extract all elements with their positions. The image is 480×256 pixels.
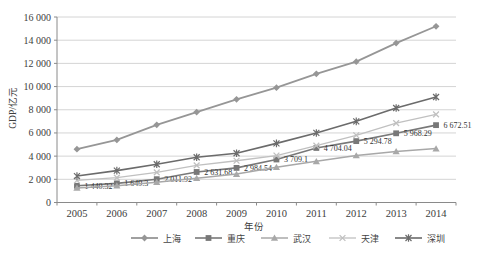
diamond-marker-icon [74,146,81,153]
y-tick-label: 8 000 [29,104,52,115]
legend-label-shenzhen: 深圳 [427,234,445,244]
legend-item-shenzhen: 深圳 [395,234,445,244]
diamond-marker-icon [353,58,360,65]
square-marker-icon [234,165,240,171]
legend-item-tianjin: 天津 [329,234,379,244]
data-label-chongqing-2014: 6 672.51 [444,121,472,130]
y-tick-label: 12 000 [24,58,52,69]
square-marker-icon [433,122,439,128]
data-label-chongqing-2012: 5 294.78 [364,137,392,146]
x-tick-label: 2010 [266,208,287,219]
square-marker-icon [206,235,212,241]
x-tick-label: 2008 [186,208,207,219]
diamond-marker-icon [393,40,400,47]
x-tick-label: 2013 [386,208,407,219]
x-tick-label: 2014 [426,208,448,219]
y-axis-title: GDP/亿元 [7,87,18,129]
legend-label-wuhan: 武汉 [293,233,311,244]
data-label-chongqing-2013: 5 968.29 [404,129,432,138]
y-tick-label: 6 000 [29,127,52,138]
diamond-marker-icon [313,70,320,77]
diamond-marker-icon [433,23,440,30]
x-tick-label: 2012 [346,208,367,219]
legend-label-chongqing: 重庆 [227,233,245,244]
y-tick-label: 10 000 [24,81,52,92]
legend-item-chongqing: 重庆 [195,233,245,244]
square-marker-icon [353,138,359,144]
y-tick-label: 14 000 [24,35,52,46]
legend-label-shanghai: 上海 [163,233,181,244]
legend-label-tianjin: 天津 [361,234,379,244]
x-axis-title: 年份 [244,221,264,232]
legend-item-shanghai: 上海 [131,233,181,244]
y-tick-label: 2 000 [29,174,52,185]
x-tick-label: 2007 [146,208,167,219]
x-tick-label: 2009 [226,208,247,219]
diamond-marker-icon [141,235,148,242]
gdp-line-chart: 02 0004 0006 0008 00010 00012 00014 0001… [0,0,480,256]
y-tick-label: 16 000 [24,12,52,23]
x-tick-label: 2011 [306,208,327,219]
legend-item-wuhan: 武汉 [261,233,311,244]
diamond-marker-icon [233,96,240,103]
diamond-marker-icon [273,84,280,91]
y-tick-label: 0 [46,197,51,208]
square-marker-icon [194,169,200,175]
square-marker-icon [393,130,399,136]
series-line-shanghai [77,26,436,149]
x-tick-label: 2005 [66,208,87,219]
chart-canvas: 02 0004 0006 0008 00010 00012 00014 0001… [0,0,480,256]
diamond-marker-icon [153,121,160,128]
diamond-marker-icon [113,136,120,143]
data-label-chongqing-2011: 4 704.04 [324,144,352,153]
x-tick-label: 2006 [106,208,127,219]
y-tick-label: 4 000 [29,151,52,162]
